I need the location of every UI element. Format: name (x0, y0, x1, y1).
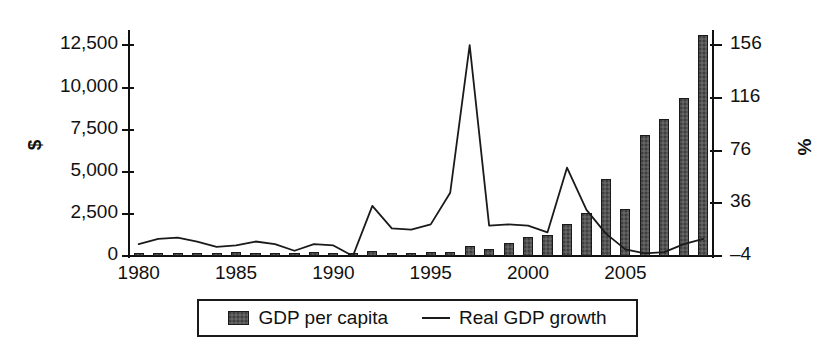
x-tick-label-1995: 1995 (391, 262, 471, 284)
legend-item-gdp-per-capita[interactable]: GDP per capita (228, 307, 388, 329)
y-tick-label-right--4: –4 (730, 243, 751, 265)
line-series-real-gdp-growth (129, 32, 713, 256)
x-tick-label-2005: 2005 (585, 262, 665, 284)
plot-area (129, 32, 713, 256)
bar-swatch-icon (228, 311, 249, 325)
line-swatch-icon (422, 317, 450, 319)
y-tick-label-right-36: 36 (730, 190, 751, 212)
x-tick-label-1980: 1980 (99, 262, 179, 284)
legend-item-real-gdp-growth[interactable]: Real GDP growth (422, 307, 607, 329)
x-tick-label-1985: 1985 (196, 262, 276, 284)
x-tick-label-2000: 2000 (488, 262, 568, 284)
chart-legend: GDP per capita Real GDP growth (197, 299, 638, 337)
x-tick-label-1990: 1990 (293, 262, 373, 284)
chart-figure: $ % 02,5005,0007,50010,00012,500 –436761… (0, 0, 831, 351)
y-tick-label-left-12500: 12,500 (0, 32, 118, 54)
y-tick-label-left-7500: 7,500 (0, 117, 118, 139)
y-tick-label-left-2500: 2,500 (0, 201, 118, 223)
y-axis-right-title: % (788, 130, 822, 164)
y-tick-label-right-156: 156 (730, 32, 762, 54)
legend-label-gdp-per-capita: GDP per capita (258, 307, 388, 329)
y-tick-label-right-76: 76 (730, 138, 751, 160)
y-tick-label-left-5000: 5,000 (0, 159, 118, 181)
y-tick-label-right-116: 116 (730, 85, 760, 107)
legend-label-real-gdp-growth: Real GDP growth (459, 307, 607, 329)
y-tick-label-left-10000: 10,000 (0, 75, 118, 97)
